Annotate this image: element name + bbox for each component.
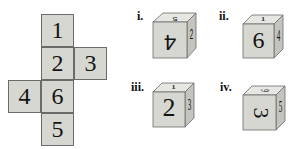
option-label-i: i. <box>137 9 143 24</box>
net-face-3: 3 <box>74 47 107 80</box>
option-label-ii: ii. <box>219 9 229 24</box>
top-number: 1 <box>170 84 176 90</box>
top-number: 9 <box>259 89 272 92</box>
front-number: 4 <box>164 30 176 55</box>
front-number: 6 <box>253 27 265 53</box>
front-number: 2 <box>163 93 176 122</box>
side-number: 2 <box>190 26 194 41</box>
cube-net: 1 2 3 4 6 5 <box>0 0 120 149</box>
top-number: 1 <box>260 16 266 22</box>
cube-option-iii: 2 1 3 <box>152 80 198 130</box>
net-face-6: 6 <box>41 80 74 113</box>
net-face-4: 4 <box>8 80 41 113</box>
side-number: 4 <box>277 26 281 44</box>
net-face-5: 5 <box>41 113 74 146</box>
net-face-1: 1 <box>41 14 74 47</box>
top-number: 5 <box>172 16 177 21</box>
side-number: 5 <box>279 97 283 115</box>
net-face-2: 2 <box>41 47 74 80</box>
option-label-iii: iii. <box>131 80 144 95</box>
cube-option-ii: 6 1 4 <box>240 10 286 60</box>
cube-option-iv: 3 9 5 <box>242 84 288 134</box>
cube-option-i: 4 5 2 <box>150 10 200 60</box>
option-label-iv: iv. <box>220 80 232 95</box>
front-number: 3 <box>249 108 274 119</box>
side-number: 3 <box>188 95 192 113</box>
